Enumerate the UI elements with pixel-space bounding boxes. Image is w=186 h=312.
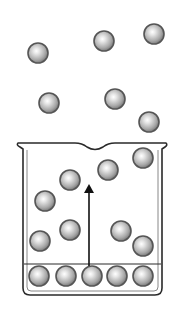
gas-particle [105, 89, 125, 109]
gas-particle [28, 43, 48, 63]
gas-particle [133, 148, 153, 168]
gas-particle [139, 112, 159, 132]
liquid-particle [56, 266, 76, 286]
gas-particle [60, 170, 80, 190]
gas-particle [98, 160, 118, 180]
gas-particles-in-beaker [30, 148, 153, 256]
gas-particle [30, 231, 50, 251]
gas-particles-above-beaker [28, 24, 164, 132]
gas-particle [94, 31, 114, 51]
liquid-particle [29, 266, 49, 286]
gas-particle [35, 191, 55, 211]
arrow-up-icon [84, 184, 94, 193]
evaporation-diagram [0, 0, 186, 312]
liquid-particle [82, 266, 102, 286]
gas-particle [39, 93, 59, 113]
liquid-particle [107, 266, 127, 286]
gas-particle [60, 220, 80, 240]
gas-particle [144, 24, 164, 44]
escape-arrow [84, 184, 94, 266]
liquid-particle [133, 266, 153, 286]
gas-particle [133, 236, 153, 256]
gas-particle [111, 221, 131, 241]
liquid-particles [29, 266, 153, 286]
